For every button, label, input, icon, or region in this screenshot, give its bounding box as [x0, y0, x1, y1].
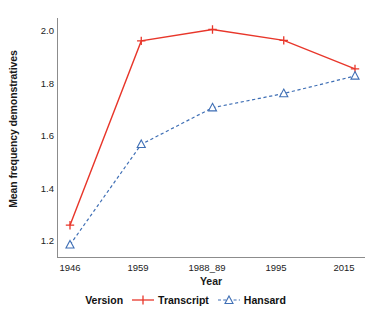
data-point-marker: [66, 240, 74, 248]
series-layer: [66, 25, 359, 248]
data-point-marker: [66, 221, 74, 229]
x-tick-label: 1988_89: [189, 262, 226, 273]
x-tick-label: 1995: [265, 262, 286, 273]
legend-marker-plus-icon: [132, 294, 154, 306]
x-axis-title: Year: [57, 275, 365, 287]
x-tick-label: 1959: [127, 262, 148, 273]
legend-marker-triangle-icon: [218, 294, 240, 306]
x-tick-label: 1946: [59, 262, 80, 273]
data-point-marker: [351, 72, 359, 80]
legend-label-hansard: Hansard: [244, 294, 286, 306]
legend-title: Version: [85, 294, 123, 306]
chart-legend: Version Transcript Hansard: [0, 294, 371, 306]
x-tick-label: 2015: [333, 262, 354, 273]
chart-figure: Mean frequency demonstratives 2.0 1.8 1.…: [0, 0, 371, 318]
plot-area: [57, 18, 365, 258]
series-transcript: [66, 25, 359, 229]
data-point-marker: [137, 140, 145, 148]
series-line: [70, 29, 355, 225]
data-point-marker: [208, 25, 216, 33]
series-line: [70, 76, 355, 245]
plot-svg: [57, 18, 365, 258]
legend-label-transcript: Transcript: [158, 294, 209, 306]
legend-entry-hansard[interactable]: Hansard: [218, 294, 286, 306]
series-hansard: [66, 72, 359, 248]
legend-entry-transcript[interactable]: Transcript: [132, 294, 209, 306]
data-point-marker: [280, 36, 288, 44]
data-point-marker: [137, 37, 145, 45]
